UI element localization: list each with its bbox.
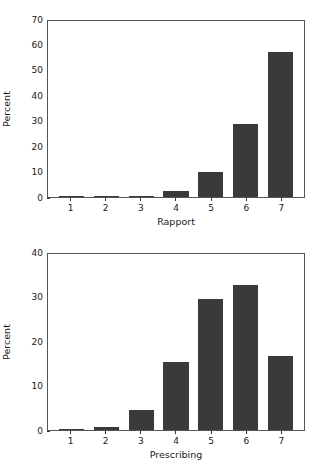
x-tick-label-rapport-4: 4	[173, 204, 179, 213]
x-tick-label-prescribing-4: 4	[173, 437, 179, 446]
bar-slot-rapport-1	[54, 21, 89, 197]
y-tick-label-rapport-10: 10	[32, 168, 47, 177]
x-tick-rapport-2: 2	[88, 198, 123, 214]
bar-slot-prescribing-7	[263, 254, 298, 430]
x-axis-prescribing: 1234567 Prescribing	[47, 431, 305, 465]
x-tick-mark-prescribing-3	[140, 431, 141, 434]
y-tick-label-rapport-20: 20	[32, 143, 47, 152]
y-tick-label-rapport-30: 30	[32, 117, 47, 126]
bar-rapport-7	[268, 52, 293, 197]
bar-rapport-1	[59, 196, 84, 197]
x-tick-mark-prescribing-7	[281, 431, 282, 434]
bar-prescribing-4	[163, 362, 188, 430]
y-axis-rapport: 010203040506070	[0, 20, 47, 198]
chart-panel-prescribing: Percent 010203040 1234567 Prescribing	[0, 233, 327, 466]
plot-area-prescribing	[47, 253, 305, 431]
x-tick-mark-prescribing-6	[246, 431, 247, 434]
x-tick-mark-prescribing-1	[70, 431, 71, 434]
y-tick-label-prescribing-30: 30	[32, 293, 47, 302]
bar-slot-rapport-7	[263, 21, 298, 197]
y-tick-label-rapport-0: 0	[37, 194, 47, 203]
x-tick-label-rapport-7: 7	[279, 204, 285, 213]
bar-slot-prescribing-5	[193, 254, 228, 430]
x-axis-title-rapport: Rapport	[47, 216, 305, 227]
bar-slot-rapport-4	[159, 21, 194, 197]
x-tick-prescribing-2: 2	[88, 431, 123, 447]
bar-prescribing-1	[59, 429, 84, 430]
bar-slot-prescribing-3	[124, 254, 159, 430]
bar-rapport-6	[233, 124, 258, 197]
chart-panel-rapport: Percent 010203040506070 1234567 Rapport	[0, 0, 327, 233]
bar-slot-prescribing-4	[159, 254, 194, 430]
bar-series-prescribing	[48, 254, 304, 430]
x-tick-label-rapport-3: 3	[138, 204, 144, 213]
y-tick-label-prescribing-10: 10	[32, 382, 47, 391]
x-tick-mark-prescribing-2	[105, 431, 106, 434]
y-tick-label-rapport-60: 60	[32, 41, 47, 50]
x-tick-label-rapport-6: 6	[243, 204, 249, 213]
x-tick-label-rapport-1: 1	[68, 204, 74, 213]
x-axis-title-prescribing: Prescribing	[47, 449, 305, 460]
y-tick-label-prescribing-40: 40	[32, 249, 47, 258]
x-tick-mark-rapport-1	[70, 198, 71, 201]
figure-two-bar-charts: Percent 010203040506070 1234567 Rapport …	[0, 0, 327, 466]
x-tick-rapport-7: 7	[264, 198, 299, 214]
x-tick-mark-rapport-3	[140, 198, 141, 201]
bar-slot-rapport-2	[89, 21, 124, 197]
x-tick-labels-prescribing: 1234567	[47, 431, 305, 447]
x-tick-mark-rapport-4	[175, 198, 176, 201]
x-tick-label-rapport-2: 2	[103, 204, 109, 213]
bar-slot-rapport-6	[228, 21, 263, 197]
y-tick-label-rapport-70: 70	[32, 16, 47, 25]
bar-prescribing-7	[268, 356, 293, 430]
bar-prescribing-3	[129, 410, 154, 430]
x-tick-mark-prescribing-5	[211, 431, 212, 434]
x-tick-mark-rapport-5	[211, 198, 212, 201]
y-tick-label-rapport-50: 50	[32, 66, 47, 75]
x-tick-rapport-4: 4	[158, 198, 193, 214]
x-tick-mark-prescribing-4	[175, 431, 176, 434]
x-tick-labels-rapport: 1234567	[47, 198, 305, 214]
x-tick-rapport-1: 1	[53, 198, 88, 214]
y-axis-prescribing: 010203040	[0, 253, 47, 431]
bar-series-rapport	[48, 21, 304, 197]
bar-rapport-4	[163, 191, 188, 197]
x-tick-rapport-3: 3	[123, 198, 158, 214]
x-axis-rapport: 1234567 Rapport	[47, 198, 305, 232]
y-tick-label-rapport-40: 40	[32, 92, 47, 101]
bar-prescribing-6	[233, 285, 258, 430]
x-tick-label-prescribing-1: 1	[68, 437, 74, 446]
x-tick-label-prescribing-6: 6	[243, 437, 249, 446]
bar-slot-rapport-3	[124, 21, 159, 197]
bar-prescribing-2	[94, 427, 119, 430]
plot-area-rapport	[47, 20, 305, 198]
x-tick-mark-rapport-7	[281, 198, 282, 201]
x-tick-mark-rapport-6	[246, 198, 247, 201]
x-tick-rapport-5: 5	[194, 198, 229, 214]
x-tick-prescribing-4: 4	[158, 431, 193, 447]
y-tick-label-prescribing-20: 20	[32, 338, 47, 347]
x-tick-prescribing-7: 7	[264, 431, 299, 447]
x-tick-label-prescribing-7: 7	[279, 437, 285, 446]
x-tick-prescribing-1: 1	[53, 431, 88, 447]
y-tick-label-prescribing-0: 0	[37, 427, 47, 436]
x-tick-label-prescribing-3: 3	[138, 437, 144, 446]
bar-rapport-2	[94, 196, 119, 197]
bar-rapport-5	[198, 172, 223, 197]
x-tick-mark-rapport-2	[105, 198, 106, 201]
bar-slot-prescribing-6	[228, 254, 263, 430]
x-tick-prescribing-5: 5	[194, 431, 229, 447]
x-tick-label-prescribing-2: 2	[103, 437, 109, 446]
x-tick-rapport-6: 6	[229, 198, 264, 214]
bar-rapport-3	[129, 196, 154, 197]
bar-slot-prescribing-2	[89, 254, 124, 430]
x-tick-prescribing-3: 3	[123, 431, 158, 447]
bar-slot-prescribing-1	[54, 254, 89, 430]
x-tick-prescribing-6: 6	[229, 431, 264, 447]
x-tick-label-prescribing-5: 5	[208, 437, 214, 446]
bar-slot-rapport-5	[193, 21, 228, 197]
x-tick-label-rapport-5: 5	[208, 204, 214, 213]
bar-prescribing-5	[198, 299, 223, 430]
